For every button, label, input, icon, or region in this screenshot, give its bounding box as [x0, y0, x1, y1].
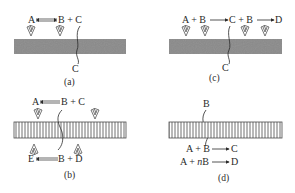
panel-a: A B + C C (a): [14, 14, 126, 88]
catalyst-site-icon: [201, 25, 209, 36]
catalyst-site-icon: [56, 25, 64, 36]
caption-a: (a): [64, 77, 75, 88]
product-C: C: [231, 143, 238, 154]
catalyst-site-icon: [34, 108, 42, 119]
products-BC: B + C: [58, 14, 82, 25]
product-D: D: [275, 14, 282, 25]
diffused-species-C: C: [72, 63, 79, 74]
reactants-AB: A + B: [186, 143, 210, 154]
striped-surface: [14, 122, 126, 138]
product-D: D: [231, 156, 238, 167]
striped-surface: [169, 122, 282, 138]
panel-b: A B + C E B + D (b): [14, 96, 126, 181]
equilibrium-arrow-icon: [36, 157, 58, 161]
species-A: A: [32, 96, 40, 107]
caption-d: (d): [218, 173, 229, 184]
caption-b: (b): [64, 170, 75, 181]
catalyst-site-icon: [261, 25, 269, 36]
catalyst-site-icon: [182, 25, 190, 36]
catalyst-site-icon: [241, 25, 249, 36]
catalyst-site-icon: [91, 108, 99, 119]
diffused-species-B: B: [203, 98, 210, 109]
reactants-AB: A + B: [182, 14, 206, 25]
caption-c: (c): [209, 73, 220, 84]
intermediate-CB: C + B: [229, 14, 253, 25]
panel-d: B A + B C A + nB D (d): [169, 98, 282, 184]
species-E: E: [28, 153, 34, 164]
species-A: A: [28, 14, 36, 25]
products-BD: B + D: [58, 153, 83, 164]
diffused-species-C: C: [222, 62, 229, 73]
products-BC: B + C: [61, 96, 85, 107]
catalysis-diagram: A B + C C (a) A + B C + B D C (c): [0, 0, 295, 193]
equilibrium-arrow-icon: [40, 100, 60, 104]
reactants-AnB: A + nB: [180, 156, 209, 167]
equilibrium-arrow-icon: [36, 18, 57, 22]
panel-c: A + B C + B D C (c): [169, 14, 282, 84]
catalyst-site-icon: [27, 25, 35, 36]
